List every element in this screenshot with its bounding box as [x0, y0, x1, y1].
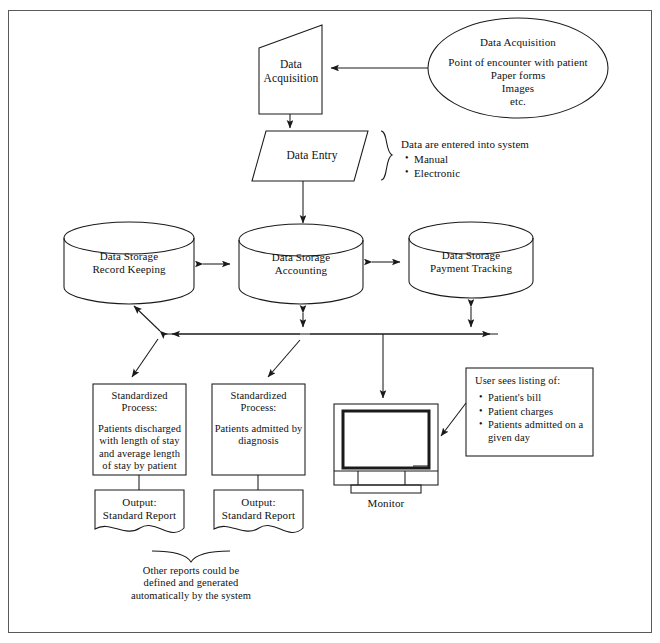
data-entry-note: Data are entered into system Manual Elec…: [401, 138, 566, 181]
user-listing-bullet-2: Patients admitted on a given day: [488, 419, 590, 444]
data-acquisition-source-item-2: Images: [433, 82, 603, 95]
storage-payment-tracking-label: Data Storage Payment Tracking: [409, 249, 533, 275]
storage-accounting-line2: Accounting: [239, 264, 363, 277]
storage-payment-tracking-line2: Payment Tracking: [409, 262, 533, 275]
monitor-caption: Monitor: [334, 497, 438, 510]
data-acquisition-process-line1: Data: [259, 58, 323, 72]
storage-record-keeping-label: Data Storage Record Keeping: [64, 250, 194, 276]
data-entry-label: Data Entry: [262, 149, 362, 163]
arrow-junction-record-keeping: [134, 306, 160, 331]
data-acquisition-source-item-3: etc.: [433, 95, 603, 108]
data-acquisition-source-item-0: Point of encounter with patient: [433, 56, 603, 69]
data-entry-note-bullets: Manual Electronic: [401, 153, 566, 180]
data-acquisition-source-title: Data Acquisition: [433, 36, 603, 49]
process-admitted-label: Standardized Process: Patients admitted …: [214, 390, 303, 448]
arrow-user-listing-to-monitor: [441, 403, 466, 436]
user-listing-bullets: Patient's bill Patient charges Patients …: [475, 392, 590, 444]
bottom-note: Other reports could be defined and gener…: [128, 565, 254, 602]
process-admitted-body: Patients admitted by diagnosis: [214, 423, 303, 448]
storage-payment-tracking-line1: Data Storage: [409, 249, 533, 262]
arrow-junction-to-process-discharged: [132, 339, 158, 377]
output-right-line2: Standard Report: [214, 509, 303, 522]
data-entry-label-text: Data Entry: [262, 149, 362, 163]
process-admitted-line2: Process:: [214, 402, 303, 414]
storage-record-keeping-line1: Data Storage: [64, 250, 194, 263]
diagram-canvas: Data Acquisition Data Acquisition Point …: [0, 0, 660, 643]
process-discharged-line2: Process:: [95, 402, 184, 414]
user-listing-bullet-1: Patient charges: [488, 406, 590, 418]
shape-monitor: [334, 404, 438, 493]
data-acquisition-process-line2: Acquisition: [259, 72, 323, 86]
data-entry-note-bullet-1: Electronic: [414, 167, 566, 180]
data-acquisition-source-label: Data Acquisition Point of encounter with…: [433, 36, 603, 108]
storage-accounting-line1: Data Storage: [239, 251, 363, 264]
process-discharged-label: Standardized Process: Patients discharge…: [95, 390, 184, 472]
user-listing-bullet-0: Patient's bill: [488, 392, 590, 404]
user-listing-label: User sees listing of: Patient's bill Pat…: [475, 375, 590, 445]
data-acquisition-source-item-1: Paper forms: [433, 69, 603, 82]
output-right-label: Output: Standard Report: [214, 496, 303, 522]
user-listing-heading: User sees listing of:: [475, 375, 590, 387]
output-left-line2: Standard Report: [95, 509, 184, 522]
output-right-line1: Output:: [214, 496, 303, 509]
process-admitted-line1: Standardized: [214, 390, 303, 402]
bottom-note-text: Other reports could be defined and gener…: [128, 565, 254, 602]
brace-bottom-note: [152, 551, 230, 562]
storage-accounting-label: Data Storage Accounting: [239, 251, 363, 277]
storage-record-keeping-line2: Record Keeping: [64, 263, 194, 276]
process-discharged-body: Patients discharged with length of stay …: [95, 423, 184, 473]
data-acquisition-process-label: Data Acquisition: [259, 58, 323, 85]
brace-data-entry-note: [381, 131, 392, 180]
monitor-caption-text: Monitor: [334, 497, 438, 510]
data-entry-note-bullet-0: Manual: [414, 153, 566, 166]
output-left-label: Output: Standard Report: [95, 496, 184, 522]
data-entry-note-heading: Data are entered into system: [401, 138, 566, 151]
arrow-bus-to-process-admitted: [268, 340, 300, 377]
output-left-line1: Output:: [95, 496, 184, 509]
process-discharged-line1: Standardized: [95, 390, 184, 402]
